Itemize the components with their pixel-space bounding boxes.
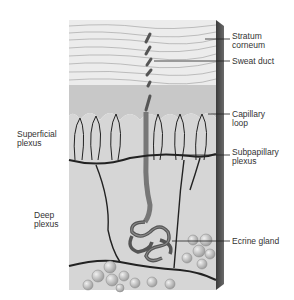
- label-ecrine-gland: Ecrine gland: [232, 237, 279, 246]
- label-capillary-loop: Capillary loop: [232, 110, 265, 128]
- stratum-corneum-layer: [69, 20, 216, 85]
- label-deep-plexus: Deep plexus: [34, 211, 59, 229]
- label-stratum-corneum: Stratum corneum: [232, 32, 265, 50]
- label-superficial-plexus: Superficial plexus: [17, 130, 57, 148]
- label-sweat-duct: Sweat duct: [232, 57, 274, 66]
- label-subpapillary-plexus: Subpapillary plexus: [232, 148, 279, 166]
- skin-diagram: Stratum corneum Sweat duct Capillary loo…: [0, 0, 294, 300]
